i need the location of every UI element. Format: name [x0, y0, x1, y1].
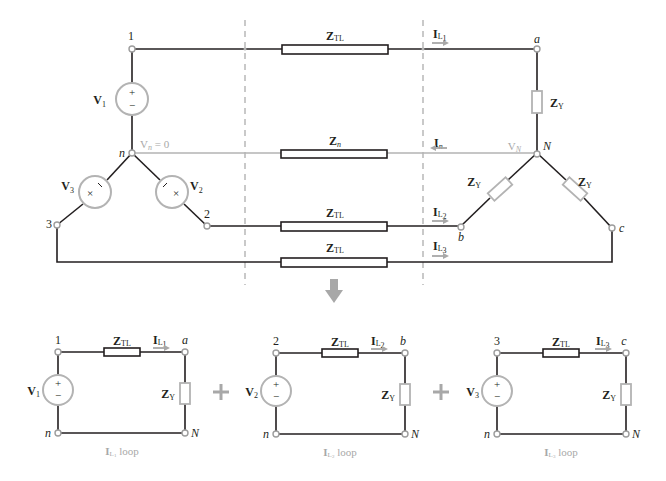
svg-text:2: 2	[273, 334, 279, 348]
svg-text:+: +	[129, 86, 135, 98]
loop-2-circuit: + − V2 ZTL ZY IL2 2 b n N IL2 loop	[245, 334, 420, 459]
top-circuit: + − V1 × V3 × V2 ZY	[46, 20, 625, 285]
node-c-label: c	[619, 221, 625, 235]
svg-text:n: n	[45, 426, 51, 440]
loop-3-caption: IL3 loop	[544, 446, 578, 459]
svg-text:3: 3	[494, 334, 500, 348]
svg-text:×: ×	[87, 187, 93, 199]
il2-label: IL2	[433, 205, 447, 221]
loop-2-line-impedance	[322, 349, 358, 357]
node-n-label: n	[119, 146, 125, 160]
loop-1-caption: IL1 loop	[105, 445, 139, 458]
svg-text:ZTL: ZTL	[331, 335, 349, 349]
svg-text:ZY: ZY	[161, 387, 175, 402]
v3-label: V3	[61, 179, 74, 195]
node-b	[458, 224, 464, 230]
node-3	[54, 222, 60, 228]
loop-1-circuit: + − V1 ZTL ZY IL1 1 a n N IL1 loop	[27, 333, 200, 458]
line-2-impedance	[281, 222, 387, 231]
svg-text:V3: V3	[466, 385, 479, 400]
svg-text:×: ×	[173, 187, 179, 199]
ztl-3-label: ZTL	[326, 241, 344, 255]
zy-a-label: ZY	[550, 96, 564, 111]
plus-icon	[213, 384, 229, 400]
svg-text:N: N	[631, 427, 641, 441]
svg-text:+: +	[273, 378, 279, 390]
svg-text:+: +	[494, 378, 500, 390]
vN-label: VN	[508, 140, 522, 154]
loop-3-load-impedance	[621, 384, 631, 405]
svg-text:ZTL: ZTL	[113, 334, 131, 348]
node-2	[204, 223, 210, 229]
v1-label: V1	[93, 93, 106, 109]
svg-text:n: n	[263, 427, 269, 441]
line-3-impedance	[281, 258, 387, 267]
svg-text:−: −	[55, 389, 61, 401]
svg-text:n: n	[484, 427, 490, 441]
v2-label: V2	[190, 179, 203, 195]
voltage-source-v3	[79, 176, 111, 208]
down-arrow-icon	[325, 279, 343, 303]
node-3-label: 3	[46, 217, 52, 231]
node-N	[534, 151, 540, 157]
node-2-label: 2	[204, 207, 210, 221]
svg-text:V2: V2	[245, 385, 258, 400]
svg-text:ZY: ZY	[381, 388, 395, 403]
plus-icon	[433, 384, 449, 400]
svg-text:ZTL: ZTL	[552, 335, 570, 349]
zn-label: Zn	[329, 134, 341, 149]
loop-1-line-impedance	[104, 348, 140, 356]
node-a-label: a	[534, 32, 540, 46]
vn-zero-label: Vn = 0	[140, 138, 170, 152]
svg-text:c: c	[621, 334, 627, 348]
svg-text:−: −	[129, 99, 135, 111]
three-phase-circuit-diagram: + − V1 × V3 × V2 ZY	[0, 0, 666, 481]
loop-2-caption: IL2 loop	[323, 446, 357, 459]
load-impedance-b	[488, 177, 513, 200]
ztl-2-label: ZTL	[326, 206, 344, 220]
svg-text:−: −	[494, 390, 500, 402]
svg-text:V1: V1	[27, 384, 40, 399]
ztl-1-label: ZTL	[326, 29, 344, 43]
svg-text:−: −	[273, 390, 279, 402]
zy-c-label: ZY	[578, 175, 592, 190]
loop-3-line-impedance	[543, 349, 579, 357]
svg-text:a: a	[182, 333, 188, 347]
node-N-label: N	[542, 139, 552, 153]
il1-label: IL1	[433, 27, 447, 43]
node-b-label: b	[458, 230, 464, 244]
neutral-impedance	[281, 150, 387, 158]
node-c	[609, 225, 615, 231]
node-1-label: 1	[128, 29, 134, 43]
il3-label: IL3	[433, 239, 447, 255]
line-3-wire	[57, 225, 281, 262]
svg-text:N: N	[410, 427, 420, 441]
line-1-impedance	[282, 45, 388, 54]
svg-text:b: b	[400, 334, 406, 348]
node-a	[534, 46, 540, 52]
loop-3-circuit: + − V3 ZTL ZY IL3 3 c n N IL3 loop	[466, 334, 641, 459]
node-n	[129, 150, 135, 156]
svg-text:1: 1	[55, 333, 61, 347]
node-1	[129, 46, 135, 52]
loop-2-load-impedance	[400, 384, 410, 405]
loop-1-load-impedance	[180, 383, 190, 404]
zy-b-label: ZY	[467, 175, 481, 190]
load-impedance-a	[532, 91, 542, 113]
svg-text:N: N	[190, 426, 200, 440]
svg-text:+: +	[55, 377, 61, 389]
svg-text:ZY: ZY	[602, 388, 616, 403]
